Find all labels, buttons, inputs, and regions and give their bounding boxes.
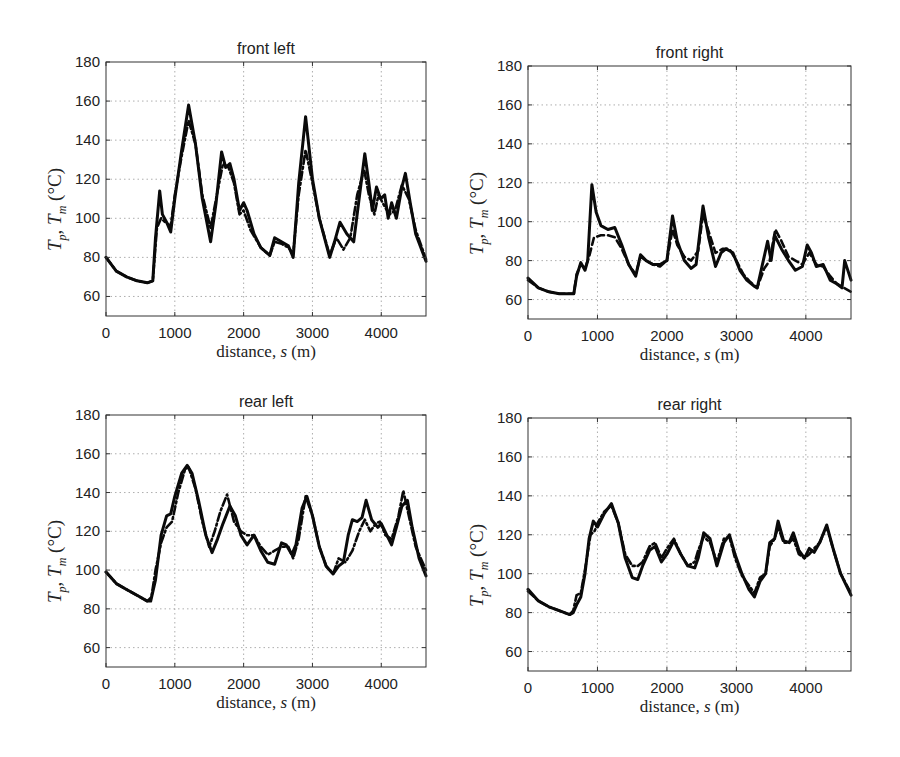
y-tick-label: 160 <box>60 92 100 109</box>
plot-area <box>528 66 851 319</box>
y-axis-label-part: T <box>466 244 487 255</box>
y-axis-label-part: , <box>466 580 487 590</box>
x-tick-label: 2000 <box>642 327 692 344</box>
y-tick-label: 140 <box>482 135 522 152</box>
x-tick-label: 4000 <box>781 327 831 344</box>
subplot-rear-right: rear right608010012014016018001000200030… <box>528 418 851 671</box>
series-line-tm <box>528 214 851 294</box>
y-axis-label: Tp, Tm (°C) <box>466 171 492 254</box>
x-axis-label: distance, s (m) <box>590 697 790 717</box>
x-tick-label: 3000 <box>287 675 337 692</box>
series-line-tm <box>528 506 851 615</box>
y-axis-label: Tp, Tm (°C) <box>44 168 70 251</box>
subplot-front-right: front right60801001201401601800100020003… <box>528 66 851 319</box>
x-tick-label: 3000 <box>711 679 761 696</box>
y-tick-label: 160 <box>482 448 522 465</box>
y-axis-label-part: , <box>44 225 65 235</box>
y-axis-label-part: , <box>466 228 487 238</box>
y-tick-label: 160 <box>482 96 522 113</box>
subplot-front-left: front left608010012014016018001000200030… <box>106 62 426 316</box>
x-axis-label-text: distance, <box>216 693 280 712</box>
x-tick-label: 0 <box>503 679 553 696</box>
x-axis-label-unit: (m) <box>711 697 740 716</box>
subplot-title: rear left <box>106 393 426 411</box>
y-axis-label-part: T <box>44 214 65 225</box>
y-axis-label: Tp, Tm (°C) <box>44 520 70 603</box>
x-axis-label-text: distance, <box>216 342 280 361</box>
x-axis-label-unit: (m) <box>287 693 316 712</box>
x-tick-label: 4000 <box>356 324 406 341</box>
y-axis-label-part: T <box>466 218 487 229</box>
x-tick-label: 0 <box>81 324 131 341</box>
x-tick-label: 3000 <box>287 324 337 341</box>
subplot-title: front left <box>106 40 426 58</box>
y-tick-label: 180 <box>60 406 100 423</box>
y-axis-label-part: (°C) <box>44 168 65 206</box>
y-tick-label: 60 <box>60 287 100 304</box>
y-tick-label: 160 <box>60 445 100 462</box>
y-axis-label-part: m <box>477 561 491 570</box>
y-axis-label-part: m <box>477 209 491 218</box>
plot-area <box>106 415 426 667</box>
plot-area <box>528 418 851 671</box>
y-axis-label-part: m <box>55 558 69 567</box>
y-tick-label: 180 <box>60 53 100 70</box>
x-tick-label: 1000 <box>150 675 200 692</box>
x-axis-label-text: distance, <box>640 697 704 716</box>
series-line-tm <box>106 467 426 601</box>
x-axis-label: distance, s (m) <box>166 342 366 362</box>
y-axis-label-part: , <box>44 577 65 587</box>
y-axis-label-part: T <box>44 566 65 577</box>
y-axis-label-part: p <box>55 234 69 240</box>
y-axis-label-part: p <box>55 586 69 592</box>
y-tick-label: 60 <box>482 291 522 308</box>
y-tick-label: 180 <box>482 57 522 74</box>
y-axis-label-part: (°C) <box>466 523 487 561</box>
x-axis-label: distance, s (m) <box>590 345 790 365</box>
y-axis-label: Tp, Tm (°C) <box>466 523 492 606</box>
x-tick-label: 1000 <box>572 679 622 696</box>
x-axis-label-text: distance, <box>640 345 704 364</box>
x-tick-label: 0 <box>81 675 131 692</box>
x-tick-label: 2000 <box>219 675 269 692</box>
y-axis-label-part: m <box>55 206 69 215</box>
x-axis-label-var: s <box>704 697 711 716</box>
y-axis-label-part: T <box>44 592 65 603</box>
y-axis-label-part: T <box>44 240 65 251</box>
plot-area <box>106 62 426 316</box>
x-tick-label: 3000 <box>711 327 761 344</box>
y-axis-label-part: (°C) <box>44 520 65 558</box>
axes-frame <box>106 415 426 667</box>
x-tick-label: 4000 <box>781 679 831 696</box>
subplot-rear-left: rear left6080100120140160180010002000300… <box>106 415 426 667</box>
x-tick-label: 2000 <box>219 324 269 341</box>
y-tick-label: 140 <box>60 484 100 501</box>
y-axis-label-part: T <box>466 570 487 581</box>
x-tick-label: 0 <box>503 327 553 344</box>
y-axis-label-part: (°C) <box>466 171 487 209</box>
x-axis-label-unit: (m) <box>711 345 740 364</box>
axes-frame <box>528 418 851 671</box>
x-tick-label: 1000 <box>572 327 622 344</box>
y-tick-label: 60 <box>60 639 100 656</box>
x-axis-label: distance, s (m) <box>166 693 366 713</box>
x-axis-label-unit: (m) <box>287 342 316 361</box>
y-tick-label: 60 <box>482 643 522 660</box>
x-tick-label: 2000 <box>642 679 692 696</box>
y-tick-label: 140 <box>60 131 100 148</box>
x-tick-label: 1000 <box>150 324 200 341</box>
y-tick-label: 180 <box>482 409 522 426</box>
y-axis-label-part: T <box>466 596 487 607</box>
y-tick-label: 140 <box>482 487 522 504</box>
x-axis-label-var: s <box>704 345 711 364</box>
subplot-title: front right <box>528 44 851 62</box>
series-line-tp <box>106 465 426 601</box>
subplot-title: rear right <box>528 396 851 414</box>
x-tick-label: 4000 <box>356 675 406 692</box>
y-axis-label-part: p <box>477 590 491 596</box>
y-axis-label-part: p <box>477 238 491 244</box>
